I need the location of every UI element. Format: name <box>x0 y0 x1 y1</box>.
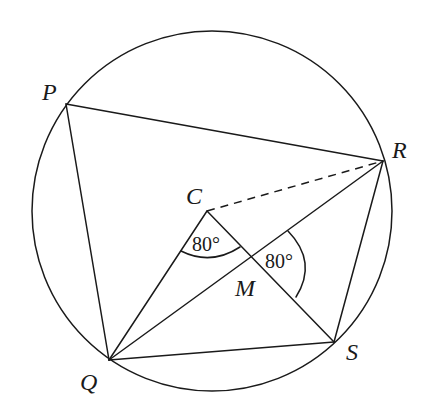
point-label-C: C <box>186 183 203 209</box>
segment-QS <box>109 342 334 360</box>
geometry-diagram: 80° 80° P Q R S C M <box>0 0 437 409</box>
angle-label-C: 80° <box>192 233 220 255</box>
circle <box>32 31 392 391</box>
segment-PR <box>66 104 383 161</box>
angle-label-M: 80° <box>265 250 293 272</box>
point-label-Q: Q <box>80 369 97 395</box>
segment-PQ <box>66 104 109 360</box>
point-label-P: P <box>41 79 57 105</box>
segment-CR-dashed <box>207 161 383 211</box>
segment-CS <box>207 211 334 342</box>
point-label-R: R <box>391 137 407 163</box>
point-label-M: M <box>234 275 257 301</box>
point-label-S: S <box>346 339 358 365</box>
segment-QR <box>109 161 383 360</box>
